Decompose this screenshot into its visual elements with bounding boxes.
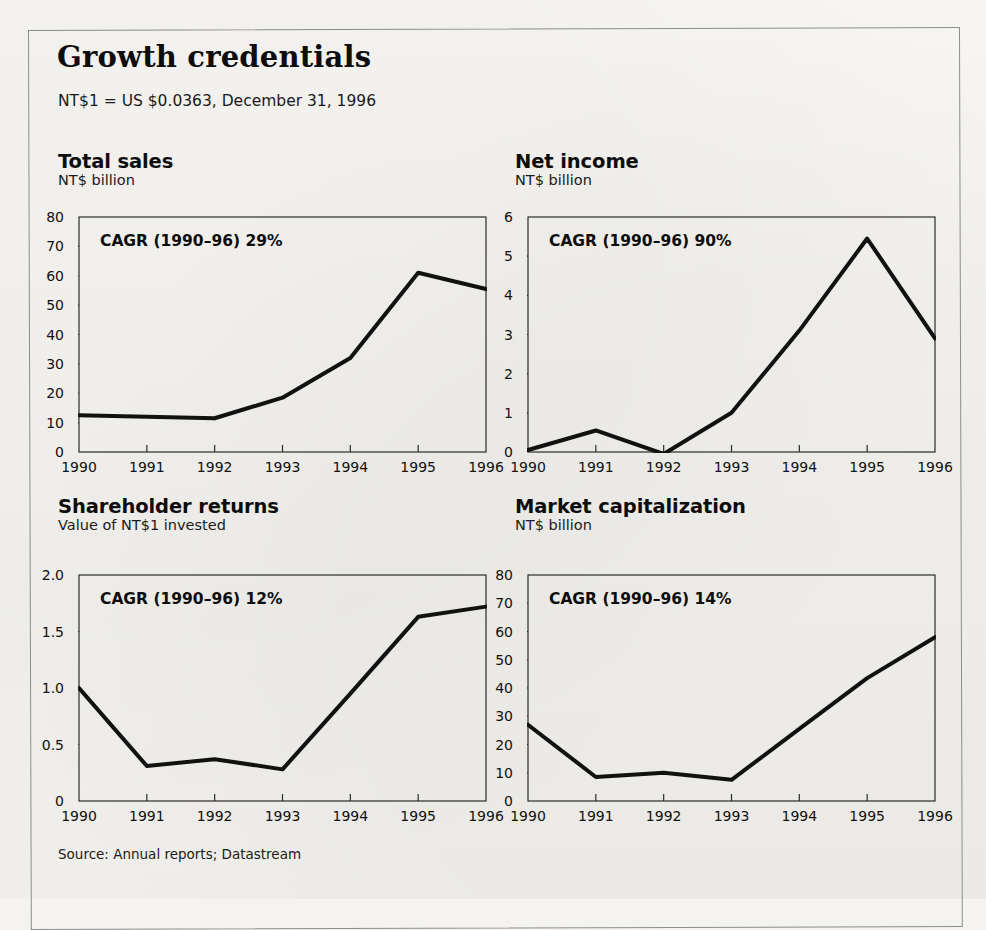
x-axis-tick-label: 1991 [129, 459, 165, 475]
exchange-rate-note: NT$1 = US $0.0363, December 31, 1996 [58, 92, 376, 110]
source-note: Source: Annual reports; Datastream [58, 846, 301, 862]
x-axis-tick-label: 1992 [197, 808, 233, 824]
y-axis-tick-label: 5 [467, 248, 513, 264]
y-axis-tick-label: 3 [467, 327, 513, 343]
x-axis-tick-label: 1992 [646, 808, 682, 824]
data-series-line [79, 607, 486, 770]
y-axis-tick-label: 40 [18, 327, 64, 343]
chart-panel-3: Shareholder returnsValue of NT$1 investe… [58, 497, 279, 534]
chart-panel-4: Market capitalizationNT$ billion [515, 497, 746, 534]
y-axis-tick-label: 1.0 [18, 680, 64, 696]
y-axis-tick-label: 60 [18, 268, 64, 284]
x-axis-tick-label: 1990 [510, 459, 546, 475]
y-axis-tick-label: 70 [18, 238, 64, 254]
chart-title: Total sales [58, 152, 173, 172]
chart-plot-2 [527, 216, 936, 453]
y-axis-tick-label: 80 [467, 567, 513, 583]
cagr-annotation: CAGR (1990–96) 90% [549, 232, 732, 250]
x-axis-tick-label: 1995 [849, 459, 885, 475]
x-axis-tick-label: 1995 [849, 808, 885, 824]
x-axis-tick-label: 1994 [333, 459, 369, 475]
y-axis-tick-label: 30 [18, 356, 64, 372]
y-axis-tick-label: 30 [467, 708, 513, 724]
cagr-annotation: CAGR (1990–96) 29% [100, 232, 283, 250]
y-axis-tick-label: 40 [467, 680, 513, 696]
x-axis-tick-label: 1992 [197, 459, 233, 475]
chart-subtitle: NT$ billion [58, 173, 173, 189]
y-axis-tick-label: 0 [18, 444, 64, 460]
y-axis-tick-label: 1 [467, 405, 513, 421]
chart-subtitle: NT$ billion [515, 173, 639, 189]
y-axis-tick-label: 50 [18, 297, 64, 313]
chart-title: Market capitalization [515, 497, 746, 517]
x-axis-tick-label: 1996 [468, 459, 504, 475]
exhibit-title: Growth credentials [57, 40, 371, 74]
chart-title: Net income [515, 152, 639, 172]
chart-plot-3 [78, 574, 487, 802]
x-axis-tick-label: 1993 [265, 459, 301, 475]
y-axis-tick-label: 20 [18, 385, 64, 401]
x-axis-tick-label: 1994 [333, 808, 369, 824]
y-axis-tick-label: 60 [467, 624, 513, 640]
y-axis-tick-label: 20 [467, 737, 513, 753]
chart-plot-1 [78, 216, 487, 453]
y-axis-tick-label: 0 [467, 793, 513, 809]
x-axis-tick-label: 1990 [61, 808, 97, 824]
y-axis-tick-label: 70 [467, 595, 513, 611]
x-axis-tick-label: 1993 [714, 808, 750, 824]
data-series-line [79, 273, 486, 418]
x-axis-tick-label: 1996 [468, 808, 504, 824]
y-axis-tick-label: 2.0 [18, 567, 64, 583]
x-axis-tick-label: 1993 [714, 459, 750, 475]
y-axis-tick-label: 10 [467, 765, 513, 781]
y-axis-tick-label: 6 [467, 209, 513, 225]
x-axis-tick-label: 1995 [400, 808, 436, 824]
data-series-line [528, 637, 935, 780]
x-axis-tick-label: 1990 [61, 459, 97, 475]
chart-subtitle: NT$ billion [515, 518, 746, 534]
x-axis-tick-label: 1991 [578, 808, 614, 824]
chart-panel-2: Net incomeNT$ billion [515, 152, 639, 189]
x-axis-tick-label: 1990 [510, 808, 546, 824]
y-axis-tick-label: 1.5 [18, 624, 64, 640]
chart-subtitle: Value of NT$1 invested [58, 518, 279, 534]
x-axis-tick-label: 1991 [578, 459, 614, 475]
x-axis-tick-label: 1996 [917, 808, 953, 824]
x-axis-tick-label: 1991 [129, 808, 165, 824]
y-axis-tick-label: 2 [467, 366, 513, 382]
x-axis-tick-label: 1993 [265, 808, 301, 824]
x-axis-tick-label: 1996 [917, 459, 953, 475]
chart-title: Shareholder returns [58, 497, 279, 517]
chart-panel-1: Total salesNT$ billion [58, 152, 173, 189]
y-axis-tick-label: 4 [467, 287, 513, 303]
chart-plot-4 [527, 574, 936, 802]
x-axis-tick-label: 1994 [782, 808, 818, 824]
x-axis-tick-label: 1992 [646, 459, 682, 475]
cagr-annotation: CAGR (1990–96) 12% [100, 590, 283, 608]
cagr-annotation: CAGR (1990–96) 14% [549, 590, 732, 608]
data-series-line [528, 239, 935, 453]
y-axis-tick-label: 10 [18, 415, 64, 431]
y-axis-tick-label: 0 [467, 444, 513, 460]
y-axis-tick-label: 80 [18, 209, 64, 225]
y-axis-tick-label: 0.5 [18, 737, 64, 753]
x-axis-tick-label: 1995 [400, 459, 436, 475]
y-axis-tick-label: 0 [18, 793, 64, 809]
y-axis-tick-label: 50 [467, 652, 513, 668]
x-axis-tick-label: 1994 [782, 459, 818, 475]
